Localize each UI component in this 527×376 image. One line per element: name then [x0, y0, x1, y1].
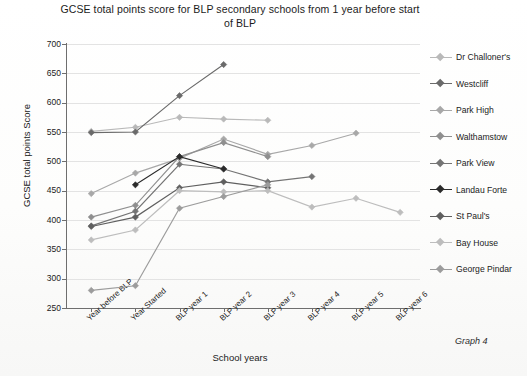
series-st-paul-s [88, 179, 271, 230]
chart-legend: Dr Challoner'sWestcliffPark HighWalthams… [430, 44, 525, 283]
series-dr-challoner-s [88, 114, 271, 134]
data-point-marker [176, 114, 182, 120]
legend-marker-swatch [436, 212, 445, 221]
data-point-marker [353, 195, 359, 201]
legend-item-label: St Paul's [456, 211, 490, 221]
legend-item-label: Westcliff [456, 79, 488, 89]
legend-item-walthamstow[interactable]: Walthamstow [430, 124, 525, 151]
legend-item-park-high[interactable]: Park High [430, 97, 525, 124]
data-point-marker [309, 142, 315, 148]
data-point-marker [132, 283, 138, 289]
legend-marker-swatch [436, 185, 445, 194]
data-point-marker [88, 287, 94, 293]
data-point-marker [132, 214, 138, 220]
legend-item-park-view[interactable]: Park View [430, 150, 525, 177]
chart-figure: GCSE total points score for BLP secondar… [0, 0, 527, 376]
data-point-marker [88, 237, 94, 243]
legend-item-label: Park View [456, 158, 495, 168]
data-point-marker [88, 214, 94, 220]
legend-diamond-icon [430, 132, 452, 141]
legend-diamond-icon [430, 106, 452, 115]
legend-item-label: Bay House [456, 238, 498, 248]
series-george-pindar [88, 182, 271, 294]
series-landau-forte [132, 154, 226, 188]
legend-diamond-icon [430, 238, 452, 247]
series-line [91, 185, 267, 291]
legend-diamond-icon [430, 185, 452, 194]
legend-marker-swatch [436, 53, 445, 62]
legend-diamond-icon [430, 159, 452, 168]
legend-diamond-icon [430, 265, 452, 274]
data-point-marker [88, 223, 94, 229]
graph-number-label: Graph 4 [455, 336, 488, 346]
data-point-marker [176, 205, 182, 211]
legend-diamond-icon [430, 212, 452, 221]
legend-item-st-paul-s[interactable]: St Paul's [430, 203, 525, 230]
legend-item-label: Walthamstow [456, 132, 507, 142]
legend-marker-swatch [436, 79, 445, 88]
data-point-marker [397, 209, 403, 215]
data-point-marker [132, 182, 138, 188]
data-point-marker [221, 166, 227, 172]
data-point-marker [309, 204, 315, 210]
legend-item-label: Landau Forte [456, 185, 507, 195]
legend-diamond-icon [430, 53, 452, 62]
legend-marker-swatch [436, 159, 445, 168]
data-point-marker [221, 61, 227, 67]
series-westcliff [88, 61, 227, 135]
data-point-marker [88, 191, 94, 197]
data-point-marker [353, 130, 359, 136]
data-point-marker [221, 179, 227, 185]
data-point-marker [221, 116, 227, 122]
data-point-marker [132, 170, 138, 176]
data-point-marker [309, 173, 315, 179]
legend-marker-swatch [436, 132, 445, 141]
legend-item-label: Park High [456, 105, 494, 115]
legend-marker-swatch [436, 106, 445, 115]
legend-item-dr-challoner-s[interactable]: Dr Challoner's [430, 44, 525, 71]
data-point-marker [265, 117, 271, 123]
data-point-marker [221, 193, 227, 199]
legend-diamond-icon [430, 79, 452, 88]
legend-item-george-pindar[interactable]: George Pindar [430, 256, 525, 283]
legend-item-label: George Pindar [456, 264, 512, 274]
legend-item-westcliff[interactable]: Westcliff [430, 71, 525, 98]
legend-marker-swatch [436, 238, 445, 247]
legend-marker-swatch [436, 265, 445, 274]
legend-item-landau-forte[interactable]: Landau Forte [430, 177, 525, 204]
legend-item-bay-house[interactable]: Bay House [430, 230, 525, 257]
legend-item-label: Dr Challoner's [456, 52, 510, 62]
